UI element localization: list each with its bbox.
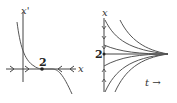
equilibrium-point: [103, 53, 106, 56]
right-y-axis-label: x: [102, 7, 108, 18]
equilibrium-label: 2: [39, 56, 47, 69]
time-label: t →: [145, 77, 161, 88]
y-axis-label: x': [21, 5, 29, 16]
x-axis-label: x: [78, 63, 84, 74]
solution-curve-above-2: [120, 20, 168, 54]
right-equilibrium-label: 2: [95, 48, 103, 61]
right-panel: x 2 t →: [95, 7, 168, 92]
left-panel: x' x 2: [6, 5, 84, 94]
diagram-canvas: x' x 2 x 2 t →: [0, 0, 177, 103]
